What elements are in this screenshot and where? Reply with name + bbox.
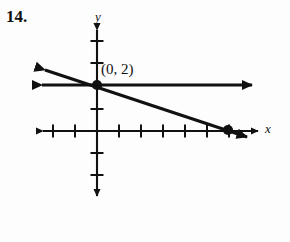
graph-svg: [0, 0, 290, 242]
y-axis: [91, 30, 104, 196]
point-y-intercept: [92, 80, 102, 90]
graph-page: 14.: [0, 0, 290, 242]
point-x-intercept: [223, 125, 233, 135]
coordinate-plane: y x (0, 2): [0, 0, 290, 242]
x-axis-label: x: [265, 122, 271, 135]
y-axis-label: y: [95, 10, 101, 23]
point-annotation-label: (0, 2): [101, 62, 134, 77]
